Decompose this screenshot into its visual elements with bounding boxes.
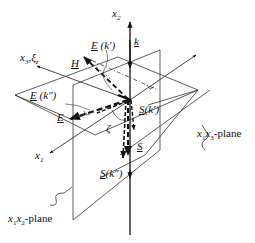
H-label: H bbox=[71, 58, 79, 69]
diagram-canvas bbox=[0, 0, 255, 243]
E-label: E bbox=[57, 112, 64, 123]
zeta-arc bbox=[112, 110, 125, 120]
leader-x1x2 bbox=[50, 187, 72, 205]
S-k1-label: S(k′) bbox=[139, 104, 159, 115]
x1-axis bbox=[50, 100, 130, 153]
S-k2-label: S(k″) bbox=[100, 168, 122, 179]
k-label: k bbox=[134, 36, 139, 47]
S-label: S bbox=[137, 141, 143, 152]
x1x2-plane-label: x1x2-plane bbox=[8, 213, 52, 227]
x1-axis-label: x1 bbox=[35, 150, 43, 164]
zeta-label: ζ bbox=[106, 123, 110, 134]
leader-Ek2 bbox=[65, 104, 90, 110]
origin-point bbox=[127, 98, 131, 102]
x1x3-plane-label: x1x3-plane bbox=[197, 128, 241, 142]
E-k2-label: E (k″) bbox=[30, 90, 56, 101]
x1x2-plane bbox=[73, 50, 160, 220]
S-k2-vector bbox=[123, 100, 126, 158]
S-k1-vector bbox=[131, 100, 134, 130]
E-k1-label: E (k′) bbox=[91, 40, 115, 51]
x3-axis-label: x3,ξz bbox=[20, 52, 39, 66]
x2-axis-label: x2 bbox=[112, 8, 120, 22]
